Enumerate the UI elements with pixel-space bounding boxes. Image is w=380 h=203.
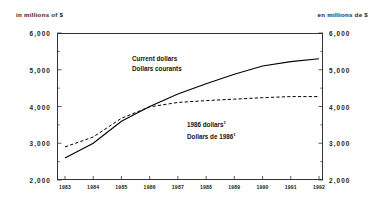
- y-axis-tick-label-right: 3,000: [329, 140, 351, 147]
- y-axis-tick-label-right: 2,000: [329, 177, 351, 184]
- annotation-current-dollars-fr: Dollars courants: [132, 64, 182, 74]
- x-axis-tick-label: 1985: [115, 184, 127, 190]
- footnote-marker-en: 1: [223, 120, 225, 125]
- x-axis-tick-label: 1990: [257, 184, 269, 190]
- x-axis-tick-label: 1991: [285, 184, 297, 190]
- y-axis-tick-label-right: 5,000: [329, 66, 351, 73]
- axis-ticks: [57, 33, 323, 180]
- x-axis-tick-label: 1987: [172, 184, 184, 190]
- annotation-1986-dollars-fr: Dollars de 19861: [187, 130, 236, 142]
- x-axis-tick-label: 1988: [200, 184, 212, 190]
- x-axis-tick-label: 1992: [313, 184, 325, 190]
- y-axis-unit-label-right: en millions de $: [318, 11, 368, 18]
- plot-area: Current dollars Dollars courants 1986 do…: [57, 33, 323, 180]
- y-axis-tick-label-right: 6,000: [329, 30, 351, 37]
- annotation-1986-dollars: 1986 dollars1 Dollars de 19861: [187, 118, 236, 141]
- x-axis-tick-label: 1983: [59, 184, 71, 190]
- x-axis-tick-label: 1984: [87, 184, 99, 190]
- plot-svg: [57, 33, 323, 180]
- annotation-current-dollars-en: Current dollars: [132, 54, 182, 64]
- x-axis-tick-label: 1986: [144, 184, 156, 190]
- y-axis-tick-label-left: 5,000: [30, 66, 52, 73]
- series-line-current-dollars: [65, 59, 319, 158]
- y-axis-tick-label-left: 2,000: [30, 177, 52, 184]
- y-axis-tick-label-left: 4,000: [30, 103, 52, 110]
- annotation-1986-dollars-en: 1986 dollars1: [187, 118, 236, 130]
- y-axis-tick-label-left: 3,000: [30, 140, 52, 147]
- footnote-marker-fr: 1: [233, 132, 235, 137]
- y-axis-tick-label-right: 4,000: [329, 103, 351, 110]
- y-axis-tick-label-left: 6,000: [30, 30, 52, 37]
- x-axis-tick-label: 1989: [228, 184, 240, 190]
- chart-figure: in millions of $ en millions de $ Curren…: [0, 0, 380, 203]
- annotation-current-dollars: Current dollars Dollars courants: [132, 54, 182, 73]
- y-axis-unit-label-left: in millions of $: [16, 11, 63, 18]
